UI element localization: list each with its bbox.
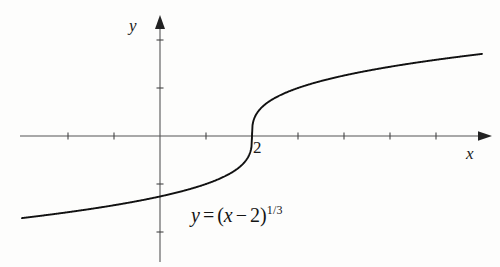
equation-exponent: 1/3 <box>267 203 283 217</box>
function-graph-figure: y x 2 y=(x−2)1/3 <box>0 0 500 267</box>
x-axis-label: x <box>466 145 474 162</box>
equation-base-var: x <box>224 204 233 226</box>
equation-equals: = <box>200 204 217 226</box>
y-axis-label: y <box>129 17 137 34</box>
y-axis-arrowhead <box>155 15 165 29</box>
x-axis-arrowhead <box>478 131 492 141</box>
equation-open-paren: ( <box>217 204 224 226</box>
equation-constant: 2 <box>250 204 260 226</box>
x-intercept-label: 2 <box>253 139 262 156</box>
equation-minus: − <box>233 204 250 226</box>
equation-lhs: y <box>191 204 200 226</box>
equation-caption: y=(x−2)1/3 <box>191 203 283 228</box>
equation-close-paren: ) <box>260 204 267 226</box>
